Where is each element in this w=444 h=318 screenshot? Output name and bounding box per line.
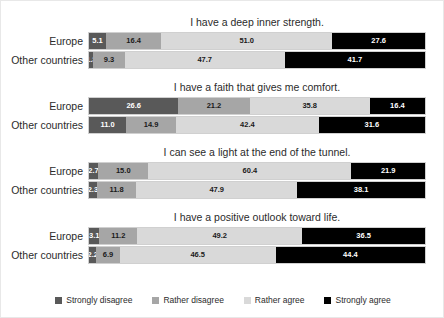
bar-value-label: 51.0 [239, 37, 254, 45]
panel-rows: Europe2.715.060.421.9Other countries2.31… [1, 163, 444, 201]
bar-value-label: 11.2 [111, 232, 125, 240]
panel-title: I have a positive outlook toward life. [89, 210, 425, 224]
legend-label: Rather disagree [163, 295, 223, 305]
panel-list: I have a deep inner strength.Europe5.116… [1, 7, 444, 267]
chart-row: Other countries1.39.347.741.7 [1, 52, 444, 69]
stacked-bar: 5.116.451.027.6 [89, 33, 425, 49]
bar-segment: 47.9 [136, 182, 297, 198]
bar-segment: 5.1 [89, 33, 106, 49]
stacked-bar: 26.621.235.816.4 [89, 98, 425, 114]
bar-value-label: 26.6 [126, 102, 141, 110]
bar-segment: 60.4 [148, 163, 351, 179]
bar-value-label: 27.6 [371, 37, 386, 45]
row-category-label: Europe [1, 228, 83, 245]
bar-segment: 9.3 [93, 52, 124, 68]
legend-swatch-icon [324, 297, 331, 304]
legend-swatch-icon [244, 297, 251, 304]
chart-row: Europe3.111.249.236.5 [1, 228, 444, 245]
bar-value-label: 35.8 [302, 102, 317, 110]
bar-value-label: 49.2 [212, 232, 227, 240]
bar-value-label: 42.4 [240, 121, 255, 129]
chart-row: Europe26.621.235.816.4 [1, 98, 444, 115]
bar-value-label: 15.0 [116, 167, 131, 175]
row-category-label: Other countries [1, 182, 83, 199]
bar-value-label: 46.5 [190, 251, 205, 259]
bar-value-label: 14.9 [144, 121, 159, 129]
panel-title: I have a deep inner strength. [89, 15, 425, 29]
row-category-label: Europe [1, 98, 83, 115]
row-category-label: Other countries [1, 247, 83, 264]
bar-value-label: 2.7 [89, 167, 98, 175]
bar-segment: 11.2 [99, 228, 137, 244]
bar-segment: 51.0 [161, 33, 332, 49]
bar-segment: 44.4 [276, 247, 425, 263]
bar-segment: 21.2 [178, 98, 249, 114]
bar-segment: 38.1 [297, 182, 425, 198]
legend-item[interactable]: Rather disagree [152, 295, 223, 305]
bar-value-label: 11.8 [109, 186, 123, 194]
bar-segment: 31.6 [319, 117, 425, 133]
row-category-label: Europe [1, 33, 83, 50]
bar-segment: 15.0 [98, 163, 148, 179]
bar-value-label: 21.2 [207, 102, 222, 110]
bar-value-label: 21.9 [381, 167, 396, 175]
legend-label: Strongly agree [335, 295, 390, 305]
bar-value-label: 3.1 [89, 232, 99, 240]
bar-value-label: 47.7 [197, 56, 212, 64]
panel-rows: Europe5.116.451.027.6Other countries1.39… [1, 33, 444, 71]
bar-segment: 42.4 [176, 117, 319, 133]
bar-segment: 2.3 [89, 182, 97, 198]
panel-title: I can see a light at the end of the tunn… [89, 145, 425, 159]
bar-value-label: 36.5 [356, 232, 371, 240]
legend-item[interactable]: Rather agree [244, 295, 305, 305]
chart-panel: I have a positive outlook toward life.Eu… [1, 202, 444, 267]
bar-value-label: 44.4 [343, 251, 358, 259]
chart-panel: I can see a light at the end of the tunn… [1, 137, 444, 202]
chart-row: Other countries2.311.847.938.1 [1, 182, 444, 199]
bar-segment: 35.8 [250, 98, 370, 114]
bar-value-label: 11.0 [100, 121, 114, 129]
bar-segment: 11.8 [97, 182, 137, 198]
bar-segment: 6.9 [96, 247, 119, 263]
stacked-bar: 1.39.347.741.7 [89, 52, 425, 68]
chart-row: Europe2.715.060.421.9 [1, 163, 444, 180]
bar-value-label: 2.3 [89, 186, 97, 194]
bar-segment: 16.4 [370, 98, 425, 114]
chart-row: Other countries11.014.942.431.6 [1, 117, 444, 134]
bar-segment: 21.9 [351, 163, 425, 179]
bar-value-label: 16.4 [390, 102, 405, 110]
bar-segment: 47.7 [125, 52, 285, 68]
panel-rows: Europe3.111.249.236.5Other countries2.26… [1, 228, 444, 266]
row-category-label: Other countries [1, 117, 83, 134]
row-category-label: Europe [1, 163, 83, 180]
bar-value-label: 47.9 [209, 186, 224, 194]
legend-item[interactable]: Strongly disagree [55, 295, 132, 305]
chart-panel: I have a deep inner strength.Europe5.116… [1, 7, 444, 72]
bar-segment: 36.5 [302, 228, 425, 244]
bar-value-label: 41.7 [348, 56, 363, 64]
bar-value-label: 2.2 [89, 251, 96, 259]
legend-item[interactable]: Strongly agree [324, 295, 390, 305]
row-category-label: Other countries [1, 52, 83, 69]
chart-figure: I have a deep inner strength.Europe5.116… [0, 0, 444, 318]
stacked-bar: 11.014.942.431.6 [89, 117, 425, 133]
legend-swatch-icon [152, 297, 159, 304]
bar-segment: 41.7 [285, 52, 425, 68]
legend-swatch-icon [55, 297, 62, 304]
bar-segment: 3.1 [89, 228, 99, 244]
bar-value-label: 38.1 [354, 186, 369, 194]
bar-segment: 16.4 [106, 33, 161, 49]
bar-value-label: 16.4 [126, 37, 141, 45]
bar-value-label: 31.6 [365, 121, 380, 129]
bar-value-label: 9.3 [104, 56, 114, 64]
chart-legend: Strongly disagreeRather disagreeRather a… [1, 295, 444, 305]
bar-segment: 46.5 [120, 247, 276, 263]
bar-value-label: 60.4 [243, 167, 258, 175]
bar-segment: 27.6 [332, 33, 425, 49]
chart-row: Europe5.116.451.027.6 [1, 33, 444, 50]
bar-value-label: 6.9 [103, 251, 113, 259]
chart-panel: I have a faith that gives me comfort.Eur… [1, 72, 444, 137]
legend-label: Strongly disagree [66, 295, 132, 305]
bar-segment: 26.6 [89, 98, 178, 114]
stacked-bar: 2.26.946.544.4 [89, 247, 425, 263]
